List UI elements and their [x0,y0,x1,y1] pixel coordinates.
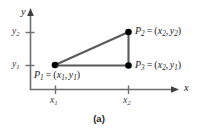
y-tick-label-y1-subscript: 1 [16,62,19,69]
point-p3-marker [125,62,132,69]
y-tick-label-y1: y1 [12,60,20,70]
x-tick-label-x1-subscript: 1 [54,99,57,106]
point-label-p3-subscript: 3 [141,63,145,71]
y-axis-arrowhead [27,8,34,16]
point-label-p1-equals: = [46,69,52,80]
point-label-p2-paren-close: ) [178,25,181,36]
x-axis-label: x [184,83,189,94]
point-label-p2: P2=(x2,y2) [135,26,181,38]
point-label-p2-subscript: 2 [141,30,145,38]
point-label-p3-comma: , [166,59,169,70]
point-p1-marker [52,62,59,69]
segment-p1-p2-hypotenuse [55,32,129,65]
point-p2-marker [125,29,132,36]
point-label-p3-equals: = [147,59,153,70]
point-label-p1: P1=(x1,y1) [34,70,80,82]
point-label-p1-comma: , [65,69,68,80]
distance-formula-figure: y x y2 y1 x1 x2 P1=(x1,y1) P2=(x2,y2) P3… [0,0,198,133]
y-tick-label-y2-subscript: 2 [16,29,19,36]
figure-caption: (a) [0,114,198,124]
x-tick-label-x2-subscript: 2 [127,99,130,106]
point-label-p2-comma: , [166,25,169,36]
y-axis-label: y [21,7,26,18]
point-label-p2-equals: = [147,25,153,36]
x-axis-arrowhead [171,86,179,93]
point-label-p1-subscript: 1 [40,74,44,82]
point-label-p1-paren-close: ) [77,69,80,80]
y-tick-label-y2: y2 [12,27,20,37]
x-tick-label-x2: x2 [123,96,131,106]
x-tick-label-x1: x1 [50,96,58,106]
point-label-p3-paren-close: ) [178,59,181,70]
point-label-p3: P3=(x2,y1) [135,60,181,72]
